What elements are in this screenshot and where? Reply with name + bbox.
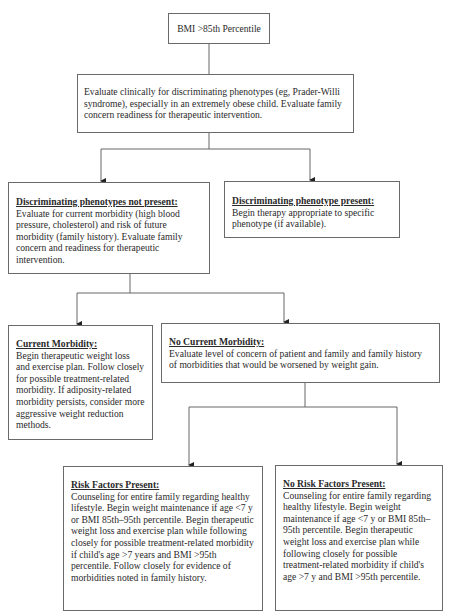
node-evaluate-clinically: Evaluate clinically for discriminating p… (77, 74, 354, 133)
node-risk-factors-present: Risk Factors Present: Counseling for ent… (63, 466, 263, 611)
node-title: No Current Morbidity: (169, 336, 432, 348)
node-text: Evaluate for current morbidity (high blo… (16, 208, 202, 266)
node-title: Current Morbidity: (16, 338, 145, 350)
node-no-risk-factors-present: No Risk Factors Present: Counseling for … (275, 465, 443, 611)
node-text: Counseling for entire family regarding h… (71, 491, 255, 584)
node-text: Evaluate clinically for discriminating p… (84, 86, 347, 121)
node-text: BMI >85th Percentile (177, 23, 261, 35)
node-text: Evaluate level of concern of patient and… (169, 348, 432, 371)
node-phenotype-present: Discriminating phenotype present: Begin … (224, 181, 400, 238)
node-title: Discriminating phenotype present: (232, 195, 392, 207)
node-phenotypes-not-present: Discriminating phenotypes not present: E… (8, 182, 210, 274)
node-current-morbidity: Current Morbidity: Begin therapeutic wei… (8, 325, 153, 440)
node-bmi-start: BMI >85th Percentile (168, 13, 270, 44)
node-title: Discriminating phenotypes not present: (16, 196, 202, 208)
node-no-current-morbidity: No Current Morbidity: Evaluate level of … (161, 323, 440, 383)
node-title: Risk Factors Present: (71, 479, 255, 491)
node-title: No Risk Factors Present: (283, 478, 435, 490)
node-text: Begin therapy appropriate to specific ph… (232, 207, 392, 230)
node-text: Begin therapeutic weight loss and exerci… (16, 350, 145, 431)
node-text: Counseling for entire family regarding h… (283, 490, 435, 583)
